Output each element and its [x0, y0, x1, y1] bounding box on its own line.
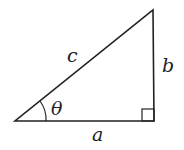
- hypotenuse-label: c: [67, 46, 78, 65]
- angle-label: θ: [51, 99, 62, 118]
- adjacent-side-label: a: [92, 125, 103, 144]
- triangle-outline: [15, 10, 154, 121]
- opposite-side-label: b: [162, 56, 174, 75]
- right-angle-marker: [142, 109, 154, 121]
- angle-arc: [40, 101, 46, 121]
- right-triangle-diagram: c b θ a: [0, 0, 184, 150]
